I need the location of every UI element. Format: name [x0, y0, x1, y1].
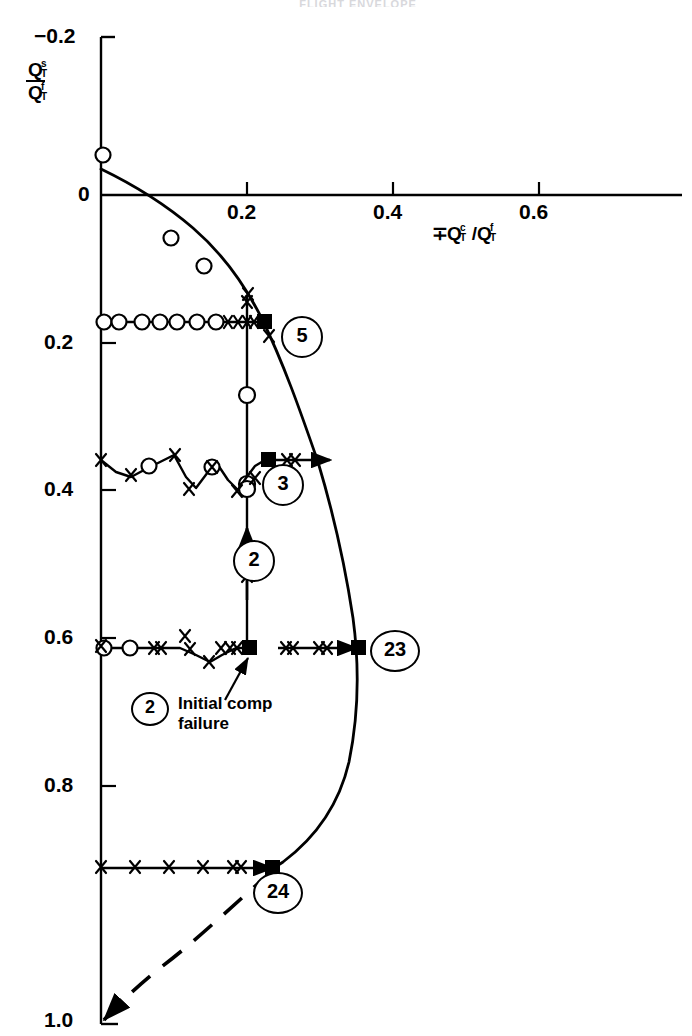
q-sub-t: T: [41, 69, 47, 79]
y-tick-label-0-6: 0.6: [44, 625, 73, 649]
test-24-path: [96, 861, 279, 874]
failure-square-23a: [243, 641, 256, 654]
x-tick-label-0-6: 0.6: [519, 200, 548, 224]
y-axis-label-numerator: QsT: [26, 60, 45, 82]
y-tick-label-0-2: 0.2: [44, 330, 73, 354]
failure-envelope-curve: [101, 169, 357, 869]
y-tick-label-0-4: 0.4: [44, 477, 73, 501]
y-axis-label: QsT QfT: [26, 60, 45, 102]
test-label-23[interactable]: 23: [370, 630, 420, 672]
y-axis-label-denominator: QfT: [26, 82, 45, 102]
q-symbol-x-den: QfT: [477, 223, 492, 245]
minus-plus-sign: ∓: [432, 222, 448, 245]
y-tick-label-minus-0-2: −0.2: [34, 24, 75, 48]
q-sub-t4: T: [490, 232, 496, 243]
failure-square-23b: [352, 641, 365, 654]
failure-square-5: [258, 315, 271, 328]
annotation-text: Initial comp failure: [178, 694, 272, 733]
q-symbol-denominator: QfT: [28, 83, 43, 102]
x-axis-ticks: [247, 182, 539, 195]
q-symbol-numerator: QsT: [28, 60, 43, 79]
x-axis-label: ∓QcT/QfT: [432, 222, 492, 245]
test-label-24[interactable]: 24: [253, 872, 303, 914]
y-tick-label-0: 0: [78, 182, 90, 206]
q-symbol-x-num: QcT: [447, 223, 462, 245]
plot-canvas: [0, 0, 692, 1036]
test-label-5[interactable]: 5: [281, 316, 323, 358]
y-tick-label-1-0: 1.0: [44, 1008, 73, 1032]
failure-envelope-dashed-extension: [104, 872, 272, 1020]
test-label-3[interactable]: 3: [262, 464, 304, 506]
y-axis-ticks: [101, 343, 116, 786]
y-tick-label-0-8: 0.8: [44, 773, 73, 797]
x-tick-label-0-2: 0.2: [227, 200, 256, 224]
axis-lines: [101, 37, 682, 1024]
test-2-path: [239, 295, 255, 648]
annotation-circle-2[interactable]: 2: [131, 692, 169, 726]
figure-root: FLIGHT ENVELOPE: [0, 0, 692, 1036]
envelope-circle-markers: [96, 148, 212, 274]
test-23-path: [96, 630, 365, 668]
q-sub-t2: T: [41, 92, 47, 102]
x-tick-label-0-4: 0.4: [373, 200, 402, 224]
test-label-2[interactable]: 2: [233, 540, 275, 582]
q-sub-t3: T: [460, 232, 466, 243]
